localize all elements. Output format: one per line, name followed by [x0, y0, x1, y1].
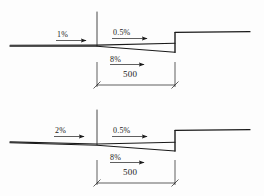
steep-grade-label: 8% [110, 154, 121, 162]
upper-grade-line [10, 43, 175, 45]
profile-drawing-lower [0, 98, 264, 196]
left-grade-label: 1% [57, 31, 68, 39]
grade-profile-diagram-upper: 1% 0.5% 8% 500 [0, 0, 264, 98]
grade-profile-diagram-lower: 2% 0.5% 8% 500 [0, 98, 264, 196]
steep-grade-label: 8% [110, 56, 121, 64]
left-grade-label: 2% [55, 127, 66, 135]
diagram-canvas: 1% 0.5% 8% 500 [0, 0, 264, 196]
distance-dimension-label: 500 [123, 70, 137, 79]
top-bench-line [175, 130, 250, 131]
lower-grade-line [10, 46, 175, 52]
top-bench-line [175, 32, 250, 33]
mid-grade-label: 0.5% [113, 29, 130, 37]
profile-drawing-upper [0, 0, 264, 98]
mid-grade-label: 0.5% [113, 127, 130, 135]
distance-dimension-label: 500 [123, 168, 137, 177]
